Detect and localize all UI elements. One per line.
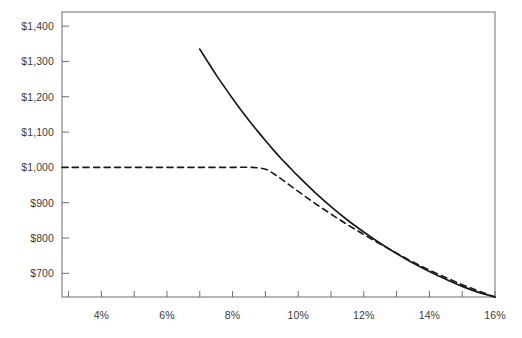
x-axis-tick-label: 4% (71, 310, 131, 321)
y-axis-tick-label: $1,000 (21, 162, 54, 173)
y-axis-tick-label: $900 (30, 198, 54, 209)
chart-line-solid-curve (200, 49, 495, 297)
x-axis-tick-label: 6% (137, 310, 197, 321)
chart-series-group (62, 49, 495, 297)
x-axis-tick-label: 12% (334, 310, 394, 321)
chart-container: $1,400$1,300$1,200$1,100$1,000$900$800$7… (0, 0, 522, 338)
x-axis-tick-label: 10% (268, 310, 328, 321)
y-axis-tick-label: $1,300 (21, 56, 54, 67)
y-axis-tick-label: $1,100 (21, 127, 54, 138)
x-axis-tick-label: 14% (399, 310, 459, 321)
x-axis-ticks (69, 291, 495, 297)
x-axis-tick-label: 16% (465, 310, 522, 321)
y-axis-tick-label: $1,200 (21, 92, 54, 103)
chart-plot-svg (0, 0, 522, 338)
y-axis-tick-label: $1,400 (21, 21, 54, 32)
y-axis-ticks (62, 26, 69, 273)
y-axis-tick-label: $700 (30, 268, 54, 279)
y-axis-tick-label: $800 (30, 233, 54, 244)
x-axis-tick-label: 8% (203, 310, 263, 321)
chart-line-dashed-curve (62, 167, 495, 297)
